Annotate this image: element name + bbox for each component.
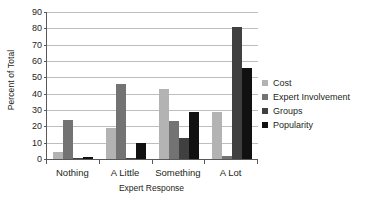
bar — [169, 121, 179, 159]
legend-item: Cost — [262, 76, 367, 90]
x-tick-mark — [99, 160, 100, 164]
legend-item: Groups — [262, 104, 367, 118]
legend-item: Popularity — [262, 118, 367, 132]
legend-label: Groups — [273, 106, 303, 116]
bar — [106, 128, 116, 159]
y-tick-label: 80 — [32, 24, 42, 33]
bar — [179, 138, 189, 159]
y-tick-label: 90 — [32, 8, 42, 17]
x-tick-mark — [46, 160, 47, 164]
bar-group — [205, 12, 258, 159]
y-axis-title-label: Percent of Total — [6, 50, 16, 111]
y-tick-label: 70 — [32, 40, 42, 49]
legend-swatch-icon — [262, 122, 268, 128]
bar — [232, 27, 242, 159]
y-tick-label: 20 — [32, 122, 42, 131]
legend-swatch-icon — [262, 108, 268, 114]
bar — [222, 156, 232, 159]
bar — [189, 112, 199, 159]
y-tick-label: 60 — [32, 57, 42, 66]
x-tick-label: Something — [152, 167, 205, 181]
bar — [242, 68, 252, 159]
bar — [136, 143, 146, 159]
bar-group — [100, 12, 153, 159]
y-tick-label: 10 — [32, 138, 42, 147]
legend-swatch-icon — [262, 80, 268, 86]
x-tick-label: Nothing — [46, 167, 99, 181]
legend-label: Cost — [273, 78, 292, 88]
legend-item: Expert Involvement — [262, 90, 367, 104]
legend-label: Popularity — [273, 120, 313, 130]
x-tick-mark — [257, 160, 258, 164]
legend: CostExpert InvolvementGroupsPopularity — [262, 76, 367, 132]
x-axis-tick-labels: NothingA LittleSomethingA Lot — [46, 167, 257, 181]
bar-chart-figure: Percent of Total 0102030405060708090 Not… — [0, 0, 369, 215]
y-tick-label: 40 — [32, 89, 42, 98]
legend-label: Expert Involvement — [273, 92, 350, 102]
x-tick-label: A Lot — [204, 167, 257, 181]
bar — [83, 157, 93, 159]
bar — [212, 112, 222, 159]
bar — [159, 89, 169, 159]
bar — [73, 158, 83, 159]
bar — [53, 152, 63, 159]
y-tick-label: 30 — [32, 106, 42, 115]
bar — [63, 120, 73, 159]
legend-swatch-icon — [262, 94, 268, 100]
bar — [116, 84, 126, 159]
x-axis-title: Expert Response — [46, 183, 257, 193]
plot-area — [46, 12, 258, 160]
bar-group — [153, 12, 206, 159]
x-tick-label: A Little — [99, 167, 152, 181]
x-axis-tick-marks — [46, 160, 258, 164]
bar-group — [47, 12, 100, 159]
x-tick-mark — [204, 160, 205, 164]
bars-layer — [47, 12, 258, 159]
y-axis-title: Percent of Total — [2, 0, 20, 160]
y-axis-tick-labels: 0102030405060708090 — [20, 12, 42, 159]
y-tick-label: 0 — [37, 155, 42, 164]
bar — [126, 158, 136, 159]
y-tick-label: 50 — [32, 73, 42, 82]
x-tick-mark — [152, 160, 153, 164]
